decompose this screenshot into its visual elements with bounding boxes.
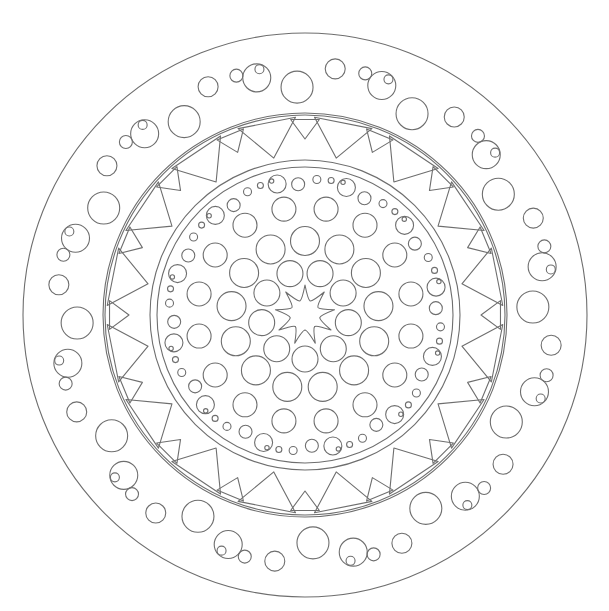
mandala-illustration: Black and white circular mandala line dr… [0, 0, 609, 611]
page-background [0, 0, 609, 611]
